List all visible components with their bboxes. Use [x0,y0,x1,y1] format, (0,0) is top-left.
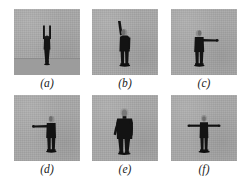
panel-image-c [171,9,237,75]
panel-label-d: (d) [14,161,80,176]
silhouette-single-arm-raised [92,9,158,75]
panel-label-a: (a) [14,75,80,90]
panel-image-a [14,9,80,75]
figure-panel-a: (a) [14,9,80,90]
panel-label-c: (c) [171,75,237,90]
panel-image-f [171,95,237,161]
figure-panel-grid: (a) [0,0,251,180]
figure-panel-c: (c) [171,9,237,90]
silhouette-walking-figure [92,95,158,161]
panel-image-d [14,95,80,161]
silhouette-arm-extended-right [171,9,237,75]
panel-image-b [92,9,158,75]
panel-label-b: (b) [92,75,158,90]
silhouette-both-arms-raised [14,9,80,75]
figure-panel-b: (b) [92,9,158,90]
silhouette-t-pose [171,95,237,161]
panel-label-f: (f) [171,161,237,176]
silhouette-arm-extended-left [14,95,80,161]
figure-panel-d: (d) [14,95,80,176]
panel-image-e [92,95,158,161]
panel-label-e: (e) [92,161,158,176]
figure-panel-f: (f) [171,95,237,176]
figure-panel-e: (e) [92,95,158,176]
